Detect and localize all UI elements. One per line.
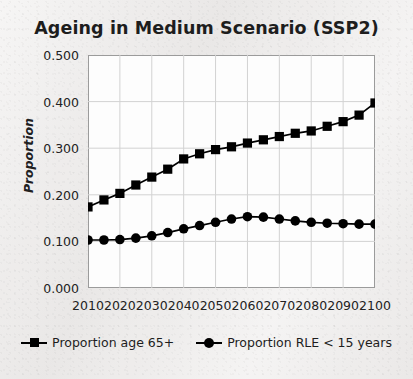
series-marker-square [323, 122, 332, 131]
y-axis-tick-label: 0.100 [31, 234, 79, 249]
y-axis-tick-label: 0.500 [31, 48, 79, 63]
series-marker-square [259, 135, 268, 144]
y-axis-tick-label: 0.000 [31, 281, 79, 296]
chart-figure: Ageing in Medium Scenario (SSP2) Proport… [0, 0, 413, 379]
series-marker-square [179, 154, 188, 163]
series-line [88, 103, 375, 207]
series-marker-square [339, 117, 348, 126]
series-marker-square [370, 98, 375, 107]
legend-marker-circle [196, 337, 222, 349]
series-marker-square [354, 111, 363, 120]
series-marker-circle [243, 212, 253, 222]
series-marker-circle [290, 216, 300, 226]
series-marker-circle [338, 219, 348, 229]
gridlines [88, 55, 375, 288]
y-axis-tick-label: 0.300 [31, 141, 79, 156]
series-marker-square [227, 142, 236, 151]
series-marker-circle [131, 233, 141, 243]
legend-marker-square [21, 337, 47, 349]
series-marker-circle [306, 217, 316, 227]
legend-entry[interactable]: Proportion age 65+ [21, 335, 174, 350]
data-series [88, 212, 375, 245]
series-marker-circle [227, 214, 237, 224]
series-marker-circle [354, 219, 364, 229]
series-marker-circle [322, 218, 332, 228]
plot-series-layer [88, 55, 375, 288]
legend-label: Proportion age 65+ [52, 335, 174, 350]
axis-ticks [88, 55, 375, 288]
series-marker-circle [370, 219, 375, 229]
legend-entry[interactable]: Proportion RLE < 15 years [196, 335, 392, 350]
series-marker-square [147, 172, 156, 181]
x-axis-tick-labels: 2010202020302040205020602070208020902100 [0, 298, 413, 316]
series-marker-circle [115, 235, 125, 245]
series-marker-circle [147, 231, 157, 241]
legend-label: Proportion RLE < 15 years [227, 335, 392, 350]
series-marker-square [243, 138, 252, 147]
legend-circle-glyph [204, 338, 214, 348]
series-marker-square [291, 129, 300, 138]
series-marker-square [275, 132, 284, 141]
series-marker-circle [179, 224, 189, 234]
series-marker-square [307, 126, 316, 135]
series-marker-square [131, 180, 140, 189]
series-marker-circle [163, 228, 173, 238]
y-axis-tick-label: 0.200 [31, 187, 79, 202]
series-marker-square [88, 202, 93, 211]
series-marker-circle [195, 221, 205, 231]
chart-legend: Proportion age 65+Proportion RLE < 15 ye… [0, 335, 413, 350]
series-marker-circle [259, 212, 269, 222]
x-axis-tick-label: 2100 [355, 298, 395, 313]
series-marker-square [163, 165, 172, 174]
legend-square-glyph [30, 338, 39, 347]
series-marker-circle [99, 235, 109, 245]
series-marker-square [99, 195, 108, 204]
series-marker-square [211, 145, 220, 154]
series-marker-circle [275, 214, 285, 224]
data-series-group [88, 98, 375, 244]
series-marker-square [115, 189, 124, 198]
series-marker-square [195, 149, 204, 158]
series-marker-circle [88, 235, 93, 245]
series-marker-circle [211, 217, 221, 227]
y-axis-tick-label: 0.400 [31, 94, 79, 109]
y-axis-tick-labels: 0.0000.1000.2000.3000.4000.500 [27, 0, 79, 379]
